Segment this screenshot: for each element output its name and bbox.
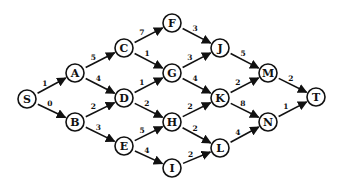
node-label: T xyxy=(312,91,321,104)
graph-diagram: 105423711254334222528421 SABCDEFGHIJKLMN… xyxy=(0,0,343,189)
edge-weight-label: 2 xyxy=(91,102,96,111)
node-t: T xyxy=(307,88,325,106)
nodes-layer: SABCDEFGHIJKLMNT xyxy=(18,14,325,177)
edges-layer: 105423711254334222528421 xyxy=(38,24,307,163)
edge-g-j: 3 xyxy=(183,53,211,68)
node-label: A xyxy=(70,67,80,80)
edge-weight-label: 4 xyxy=(96,74,101,83)
node-k: K xyxy=(211,89,229,107)
edge-weight-label: 2 xyxy=(144,99,149,108)
edge-a-c: 5 xyxy=(86,53,115,68)
node-label: E xyxy=(120,140,128,153)
graph-canvas: 105423711254334222528421 SABCDEFGHIJKLMN… xyxy=(0,0,343,189)
node-e: E xyxy=(115,137,133,155)
edge-weight-label: 5 xyxy=(139,126,144,135)
edge-c-f: 7 xyxy=(135,28,163,43)
edge-a-d: 4 xyxy=(86,74,115,93)
node-label: G xyxy=(167,67,176,80)
node-b: B xyxy=(66,113,84,131)
edge-weight-label: 1 xyxy=(139,78,144,87)
edge-weight-label: 3 xyxy=(96,123,101,132)
edge-s-b: 0 xyxy=(38,99,66,117)
edge-e-i: 4 xyxy=(135,146,163,164)
edge-e-h: 5 xyxy=(135,126,163,140)
edge-j-m: 5 xyxy=(231,49,259,68)
edge-h-l: 2 xyxy=(183,124,211,143)
node-i: I xyxy=(163,159,181,177)
edge-b-d: 2 xyxy=(86,102,115,116)
edge-d-h: 2 xyxy=(135,99,163,117)
node-label: N xyxy=(263,116,273,129)
node-m: M xyxy=(259,64,277,82)
edge-l-n: 4 xyxy=(231,127,259,142)
node-label: M xyxy=(262,67,274,80)
edge-weight-label: 4 xyxy=(144,146,149,155)
edge-c-g: 1 xyxy=(135,49,163,68)
edge-weight-label: 2 xyxy=(188,150,193,159)
node-h: H xyxy=(163,113,181,131)
node-label: D xyxy=(119,92,129,105)
node-label: K xyxy=(215,92,225,105)
edge-weight-label: 4 xyxy=(192,74,197,83)
node-label: S xyxy=(23,93,31,106)
edge-k-m: 2 xyxy=(231,78,259,93)
node-label: H xyxy=(167,116,177,129)
node-g: G xyxy=(163,64,181,82)
node-l: L xyxy=(211,139,229,157)
edge-weight-label: 0 xyxy=(47,99,52,108)
edge-f-j: 3 xyxy=(183,24,211,43)
node-label: C xyxy=(120,42,129,55)
node-label: I xyxy=(169,162,174,175)
node-s: S xyxy=(18,90,36,108)
node-c: C xyxy=(115,39,133,57)
edge-weight-label: 2 xyxy=(235,78,240,87)
edge-d-g: 1 xyxy=(135,78,163,93)
edge-weight-label: 1 xyxy=(42,79,47,88)
node-label: F xyxy=(168,17,176,30)
node-a: A xyxy=(66,64,84,82)
edge-weight-label: 1 xyxy=(144,49,149,58)
edge-weight-label: 5 xyxy=(91,53,96,62)
edge-i-l: 2 xyxy=(183,150,210,164)
edge-weight-label: 2 xyxy=(288,74,293,83)
edge-weight-label: 4 xyxy=(235,128,240,137)
node-label: B xyxy=(70,116,79,129)
edge-k-n: 8 xyxy=(231,99,259,117)
edge-weight-label: 2 xyxy=(187,102,192,111)
edge-s-a: 1 xyxy=(38,78,66,93)
edge-g-k: 4 xyxy=(183,74,211,93)
node-label: J xyxy=(216,42,222,55)
edge-weight-label: 3 xyxy=(192,24,197,33)
edge-weight-label: 7 xyxy=(139,28,144,37)
edge-m-t: 2 xyxy=(279,74,307,92)
edge-weight-label: 1 xyxy=(283,102,288,111)
edge-weight-label: 2 xyxy=(192,124,197,133)
node-j: J xyxy=(211,39,229,57)
edge-weight-label: 8 xyxy=(240,99,245,108)
edge-h-k: 2 xyxy=(183,102,211,116)
node-n: N xyxy=(259,113,277,131)
edge-weight-label: 5 xyxy=(240,49,245,58)
node-d: D xyxy=(115,89,133,107)
edge-n-t: 1 xyxy=(279,102,307,117)
edge-weight-label: 3 xyxy=(187,53,192,62)
edge-b-e: 3 xyxy=(86,123,115,142)
node-f: F xyxy=(163,14,181,32)
node-label: L xyxy=(216,142,224,155)
